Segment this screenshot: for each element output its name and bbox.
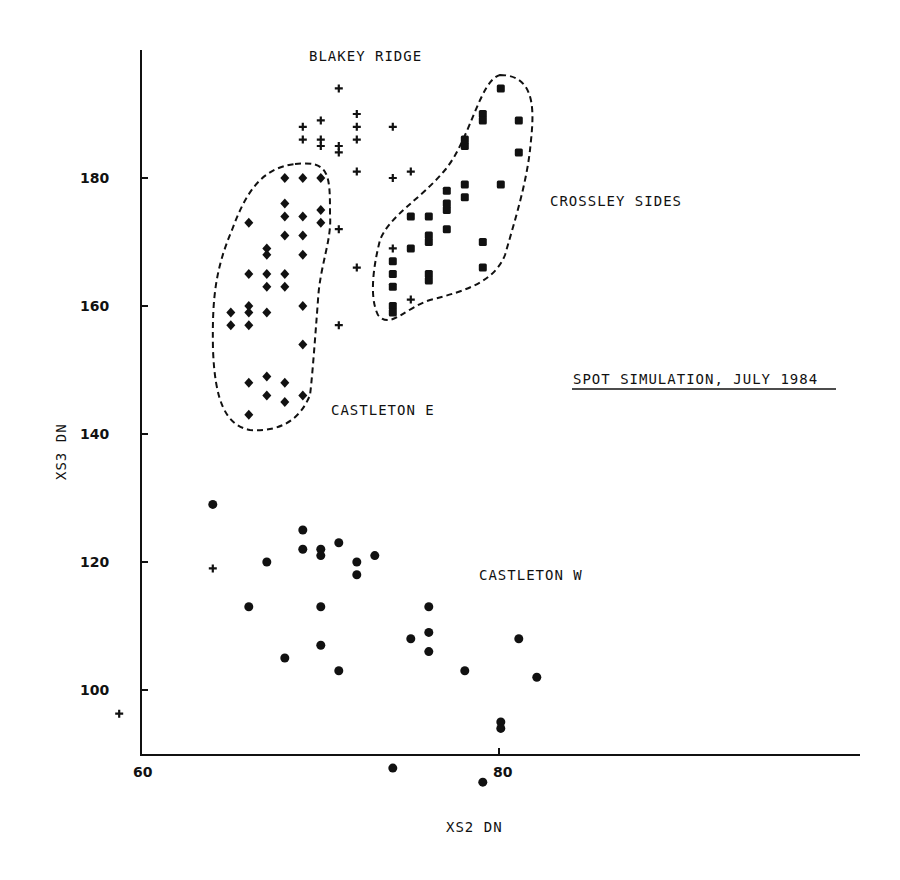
- chart-title: SPOT SIMULATION, JULY 1984: [573, 371, 818, 387]
- data-point-crossley-sides: [425, 212, 433, 220]
- data-point-blakey-ridge: [389, 123, 397, 131]
- data-point-crossley-sides: [461, 180, 469, 188]
- x-axis-label: XS2 DN: [446, 819, 503, 835]
- data-point-castleton-w: [370, 551, 379, 560]
- data-point-castleton-w: [424, 647, 433, 656]
- x-tick-label: 80: [493, 764, 513, 780]
- data-point-crossley-sides: [479, 264, 487, 272]
- data-point-crossley-sides: [479, 238, 487, 246]
- data-point-castleton-e: [262, 307, 271, 317]
- data-point-blakey-ridge: [353, 123, 361, 131]
- data-point-castleton-e: [244, 378, 253, 388]
- data-point-crossley-sides: [443, 187, 451, 195]
- data-point-castleton-w: [424, 602, 433, 611]
- data-point-castleton-w: [496, 724, 505, 733]
- data-point-castleton-e: [280, 211, 289, 221]
- data-point-crossley-sides: [407, 244, 415, 252]
- data-point-castleton-e: [280, 199, 289, 209]
- data-point-blakey-ridge: [389, 244, 397, 252]
- data-point-blakey-ridge: [335, 321, 343, 329]
- data-point-castleton-w: [244, 602, 253, 611]
- y-tick-label: 140: [80, 426, 109, 442]
- data-point-castleton-w: [406, 634, 415, 643]
- label-castleton-w: CASTLETON W: [479, 567, 583, 583]
- label-castleton-e: CASTLETON E: [331, 402, 435, 418]
- data-point-castleton-w: [478, 778, 487, 787]
- data-point-castleton-e: [244, 410, 253, 420]
- data-point-castleton-e: [298, 211, 307, 221]
- data-point-blakey-ridge: [299, 136, 307, 144]
- y-ticks: 100120140160180: [80, 170, 148, 698]
- data-point-castleton-e: [244, 218, 253, 228]
- data-point-castleton-e: [298, 173, 307, 183]
- data-point-castleton-e: [316, 205, 325, 215]
- data-point-castleton-w: [532, 673, 541, 682]
- data-point-castleton-w: [514, 634, 523, 643]
- crossley-sides-outline: [373, 75, 533, 320]
- data-points: [115, 84, 541, 786]
- data-point-castleton-w: [316, 641, 325, 650]
- data-point-castleton-e: [262, 391, 271, 401]
- data-point-castleton-e: [298, 301, 307, 311]
- y-axis-label: XS3 DN: [53, 423, 69, 480]
- data-point-blakey-ridge: [115, 710, 123, 718]
- data-point-crossley-sides: [515, 148, 523, 156]
- data-point-castleton-e: [298, 391, 307, 401]
- data-point-crossley-sides: [425, 276, 433, 284]
- data-point-crossley-sides: [479, 116, 487, 124]
- data-point-castleton-w: [352, 570, 361, 579]
- data-point-blakey-ridge: [209, 564, 217, 572]
- data-point-blakey-ridge: [407, 168, 415, 176]
- data-point-castleton-e: [298, 250, 307, 260]
- data-point-castleton-w: [352, 558, 361, 567]
- data-point-crossley-sides: [461, 193, 469, 201]
- data-point-blakey-ridge: [299, 123, 307, 131]
- data-point-crossley-sides: [425, 238, 433, 246]
- data-point-castleton-w: [388, 764, 397, 773]
- scatter-chart: 100120140160180 6080 BLAKEY RIDGE CROSSL…: [0, 0, 900, 880]
- data-point-castleton-e: [226, 320, 235, 330]
- data-point-blakey-ridge: [335, 225, 343, 233]
- data-point-blakey-ridge: [353, 168, 361, 176]
- data-point-castleton-w: [208, 500, 217, 509]
- data-point-castleton-w: [334, 666, 343, 675]
- data-point-castleton-e: [262, 282, 271, 292]
- data-point-castleton-w: [262, 558, 271, 567]
- data-point-castleton-w: [280, 654, 289, 663]
- data-point-crossley-sides: [389, 283, 397, 291]
- x-ticks: 6080: [133, 748, 513, 780]
- data-point-castleton-e: [262, 250, 271, 260]
- data-point-blakey-ridge: [389, 174, 397, 182]
- data-point-blakey-ridge: [317, 142, 325, 150]
- data-point-blakey-ridge: [335, 148, 343, 156]
- data-point-crossley-sides: [443, 225, 451, 233]
- data-point-castleton-e: [226, 307, 235, 317]
- data-point-castleton-e: [280, 397, 289, 407]
- data-point-castleton-w: [424, 628, 433, 637]
- data-point-castleton-e: [298, 231, 307, 241]
- data-point-blakey-ridge: [317, 116, 325, 124]
- data-point-crossley-sides: [407, 212, 415, 220]
- data-point-blakey-ridge: [407, 296, 415, 304]
- data-point-castleton-e: [280, 378, 289, 388]
- data-point-castleton-e: [244, 307, 253, 317]
- data-point-crossley-sides: [389, 270, 397, 278]
- data-point-crossley-sides: [461, 142, 469, 150]
- castleton-e-outline: [213, 163, 330, 430]
- data-point-castleton-e: [262, 269, 271, 279]
- y-tick-label: 160: [80, 298, 109, 314]
- data-point-castleton-e: [280, 173, 289, 183]
- data-point-blakey-ridge: [353, 136, 361, 144]
- data-point-castleton-e: [280, 231, 289, 241]
- data-point-crossley-sides: [497, 180, 505, 188]
- data-point-castleton-w: [316, 551, 325, 560]
- label-crossley-sides: CROSSLEY SIDES: [550, 193, 682, 209]
- label-blakey-ridge: BLAKEY RIDGE: [309, 48, 422, 64]
- data-point-crossley-sides: [389, 308, 397, 316]
- data-point-castleton-w: [298, 526, 307, 535]
- data-point-castleton-e: [262, 371, 271, 381]
- data-point-castleton-w: [316, 602, 325, 611]
- data-point-blakey-ridge: [335, 84, 343, 92]
- data-point-crossley-sides: [497, 84, 505, 92]
- data-point-castleton-e: [280, 269, 289, 279]
